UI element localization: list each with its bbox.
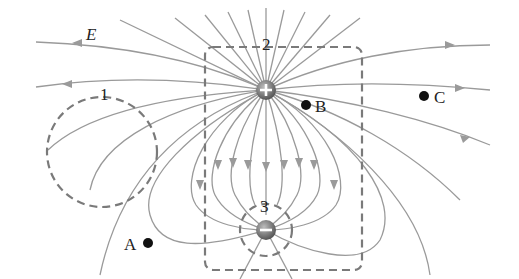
surface-2-label: 2 <box>262 35 271 54</box>
surface-1 <box>47 97 157 207</box>
negative-charge <box>256 220 276 240</box>
point-C-label: C <box>434 88 445 107</box>
point-A-label: A <box>124 235 137 254</box>
gaussian-surfaces <box>47 47 362 270</box>
point-A-marker <box>143 238 153 248</box>
point-C-marker <box>419 91 429 101</box>
surface-1-label: 1 <box>100 85 109 104</box>
point-B-label: B <box>315 97 326 116</box>
diagram-canvas: E 1 2 3 A B C <box>0 0 519 279</box>
positive-charge <box>256 80 276 100</box>
field-label: E <box>85 25 97 44</box>
point-B-marker <box>301 100 311 110</box>
surface-3-label: 3 <box>260 197 269 216</box>
surface-2 <box>205 47 362 270</box>
dipole-field-diagram: E 1 2 3 A B C <box>0 0 519 279</box>
